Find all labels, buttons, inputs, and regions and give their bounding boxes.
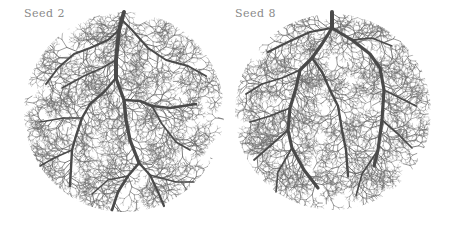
panel-seed-8 <box>227 0 438 225</box>
fine-vein-network <box>227 0 438 225</box>
panel-seed-2 <box>20 8 231 229</box>
panel-label-seed-2: Seed 2 <box>24 7 65 20</box>
vein-diagram <box>0 0 454 228</box>
figure: Seed 2 Seed 8 <box>0 0 454 228</box>
panel-label-seed-8: Seed 8 <box>235 7 276 20</box>
